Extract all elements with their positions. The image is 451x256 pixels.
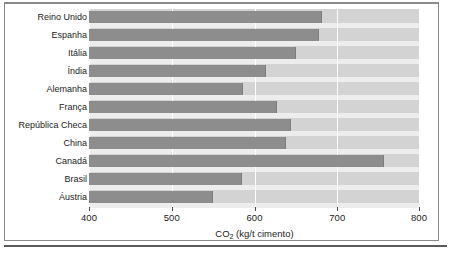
plot-area (89, 9, 420, 207)
category-label-república-checa: República Checa (1, 119, 87, 131)
tick-label-600: 600 (235, 212, 275, 223)
chart-figure: Reino UnidoEspanhaItáliaÍndiaAlemanhaFra… (0, 0, 451, 256)
bar-alemanha (89, 83, 243, 95)
bar-china (89, 137, 286, 149)
category-label-reino-unido: Reino Unido (1, 11, 87, 23)
tick-label-700: 700 (317, 212, 357, 223)
tick-mark-700 (337, 207, 338, 211)
tick-mark-600 (255, 207, 256, 211)
tick-mark-800 (419, 207, 420, 211)
category-label-alemanha: Alemanha (1, 83, 87, 95)
x-axis-title-subscript: 2 (230, 233, 234, 240)
bar-áustria (89, 191, 213, 203)
category-label-índia: Índia (1, 65, 87, 77)
bar-brasil (89, 173, 242, 185)
gridline-800 (419, 9, 420, 207)
x-axis-title-suffix: (kg/t cimento) (233, 228, 293, 239)
tick-mark-500 (172, 207, 173, 211)
tick-label-800: 800 (399, 212, 439, 223)
category-label-itália: Itália (1, 47, 87, 59)
bar-frança (89, 101, 277, 113)
bar-espanha (89, 29, 319, 41)
category-label-canadá: Canadá (1, 155, 87, 167)
bar-itália (89, 47, 296, 59)
tick-mark-400 (89, 207, 90, 211)
category-label-frança: França (1, 101, 87, 113)
x-axis-title: CO2 (kg/t cimento) (89, 228, 420, 239)
bottom-divider (4, 245, 447, 247)
category-label-espanha: Espanha (1, 29, 87, 41)
tick-label-500: 500 (152, 212, 192, 223)
gridline-700 (337, 9, 338, 207)
bar-canadá (89, 155, 384, 167)
x-axis: 400500600700800 (89, 207, 420, 229)
bar-índia (89, 65, 266, 77)
category-label-áustria: Áustria (1, 191, 87, 203)
x-axis-title-prefix: CO (215, 228, 229, 239)
tick-label-400: 400 (69, 212, 109, 223)
bar-república-checa (89, 119, 291, 131)
bar-reino-unido (89, 11, 322, 23)
category-axis-labels: Reino UnidoEspanhaItáliaÍndiaAlemanhaFra… (0, 9, 87, 207)
category-label-brasil: Brasil (1, 173, 87, 185)
category-label-china: China (1, 137, 87, 149)
